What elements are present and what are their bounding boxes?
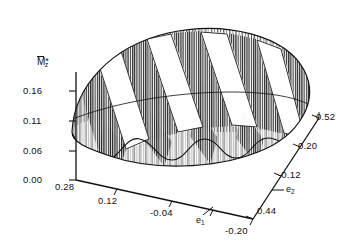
x-axis-label: e1 bbox=[196, 216, 205, 225]
z-tick-label-0: 0.16 bbox=[23, 86, 42, 96]
x-tick-label-0: 0.28 bbox=[55, 182, 74, 192]
y-tick-label-0: 0.52 bbox=[316, 112, 335, 122]
y-axis-label: e2 bbox=[286, 185, 295, 194]
surface-mesh bbox=[66, 20, 318, 180]
x-tick-label-2: -0.04 bbox=[150, 208, 173, 218]
z-tick-label-1: 0.11 bbox=[23, 116, 42, 126]
y-tick-label-3: 0.44 bbox=[257, 206, 276, 216]
y-axis-label-sub: 2 bbox=[291, 188, 295, 195]
x-axis-label-sub: 1 bbox=[201, 219, 205, 226]
z-axis-title: M*z bbox=[37, 57, 52, 67]
plot-canvas bbox=[0, 0, 353, 248]
y-tick-label-1: 0.20 bbox=[298, 141, 317, 151]
x-tick-label-1: 0.12 bbox=[98, 196, 117, 206]
z-tick-label-3: 0.00 bbox=[23, 175, 42, 185]
surface-plot-figure: M*z 0.16 0.11 0.06 0.00 0.28 0.12 -0.04 … bbox=[0, 0, 353, 248]
x-tick-label-3: -0.20 bbox=[225, 226, 248, 236]
y-tick-label-2: -0.12 bbox=[278, 170, 301, 180]
z-tick-label-2: 0.06 bbox=[23, 146, 42, 156]
z-axis-title-sub: z bbox=[45, 61, 49, 68]
